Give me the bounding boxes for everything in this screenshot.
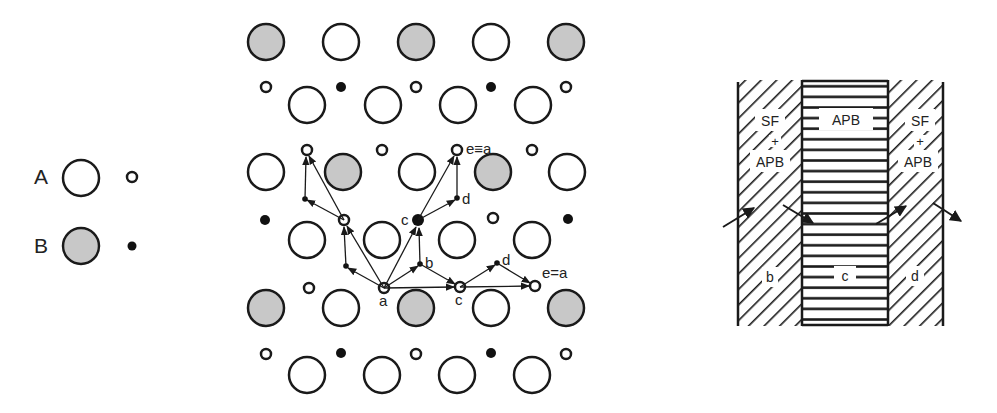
legend-label-a: A (34, 165, 48, 188)
lattice (248, 24, 585, 393)
atom-a-large (248, 154, 284, 190)
atom-b-large (398, 24, 434, 60)
atom-a-small (561, 82, 571, 92)
atom-a-small (261, 82, 271, 92)
atom-a-small-site-e (530, 281, 540, 291)
atom-a-large (323, 24, 359, 60)
atom-b-large (248, 290, 284, 326)
atom-a-large (439, 357, 475, 393)
atom-a-large (473, 290, 509, 326)
atom-a-large (364, 222, 400, 258)
atom-a-large (399, 154, 435, 190)
atom-a-large (289, 222, 325, 258)
left-label-plus: + (771, 134, 779, 149)
arrow (344, 227, 346, 266)
label-mid-c: c (401, 211, 409, 228)
middle-label-apb: APB (832, 112, 860, 128)
arrow (460, 265, 495, 287)
arrow (384, 287, 454, 288)
atom-b-small (486, 348, 496, 358)
atom-b-small (563, 214, 573, 224)
right-label-apb: APB (904, 154, 932, 170)
label-top-d: d (462, 190, 470, 207)
label-mid-b: b (425, 254, 433, 271)
fault-diagram: SF + APB b APB c SF + APB d (723, 80, 961, 326)
legend-atom-a-small (127, 172, 137, 182)
atom-b-large (248, 24, 284, 60)
atom-a-large (439, 222, 475, 258)
atom-a-small (304, 283, 314, 293)
atom-a-large (323, 290, 359, 326)
atom-b-small (486, 82, 496, 92)
atom-b-large (548, 24, 584, 60)
atom-a-small (377, 145, 387, 155)
atom-b-large (325, 154, 361, 190)
atom-a-large (514, 357, 550, 393)
left-label-b: b (766, 269, 774, 285)
middle-label-c: c (842, 268, 849, 284)
atom-b-small (336, 82, 346, 92)
atom-a-small (302, 145, 312, 155)
atom-a-small (561, 349, 571, 359)
right-label-sf: SF (911, 113, 929, 129)
legend-atom-a-large (63, 160, 99, 196)
figure: A B (0, 0, 997, 413)
arrow (305, 157, 306, 199)
arrow (460, 286, 529, 287)
atom-a-large (514, 222, 550, 258)
atom-a-large (289, 87, 325, 123)
label-bottom-d: d (502, 251, 510, 268)
atom-a-large (440, 87, 476, 123)
atom-a-large (365, 87, 401, 123)
atom-b-large (475, 154, 511, 190)
arrow (419, 228, 420, 264)
legend-label-b: B (34, 234, 48, 257)
left-label-sf: SF (761, 113, 779, 129)
atom-a-small (411, 349, 421, 359)
atom-a-large (289, 357, 325, 393)
left-label-apb: APB (756, 154, 784, 170)
atom-b-large (548, 290, 584, 326)
label-bottom-e: e=a (542, 264, 568, 281)
label-bottom-a: a (379, 292, 388, 309)
atom-a-small (261, 349, 271, 359)
label-bottom-c: c (455, 291, 463, 308)
label-top-e: e≡a (466, 140, 492, 157)
right-label-d: d (911, 268, 919, 284)
legend-atom-b-small (128, 242, 137, 251)
atom-a-small (527, 145, 537, 155)
atom-b-small (260, 215, 270, 225)
legend-atom-b-large (63, 228, 99, 264)
atom-b-large (398, 290, 434, 326)
legend: A B (34, 160, 137, 264)
atom-a-large (473, 24, 509, 60)
atom-a-small (411, 82, 421, 92)
atom-b-small (336, 348, 346, 358)
atom-a-large (364, 357, 400, 393)
atom-a-large (515, 87, 551, 123)
right-label-plus: + (916, 134, 924, 149)
atom-a-large (549, 154, 585, 190)
atom-a-small (488, 213, 498, 223)
atom-a-small (452, 145, 462, 155)
